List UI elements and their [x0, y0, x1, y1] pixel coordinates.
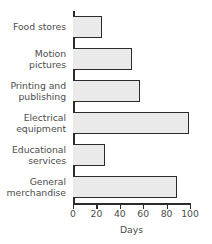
x-axis-tick-label: 40: [114, 208, 126, 220]
category-label-food-stores: Food stores: [0, 11, 70, 43]
x-axis-tick-labels: 020406080100: [73, 208, 190, 221]
x-axis-tick-label: 20: [90, 208, 102, 220]
x-axis-tick-label: 0: [70, 208, 76, 220]
category-label-motion-pictures: Motion pictures: [0, 43, 70, 75]
bar-food-stores: [73, 16, 102, 38]
bar-chart: Food stores Motion pictures Printing and…: [0, 0, 212, 244]
category-axis-labels: Food stores Motion pictures Printing and…: [0, 11, 70, 203]
bar-slot: [73, 107, 190, 139]
category-label-educational-services: Educational services: [0, 139, 70, 171]
x-axis-title: Days: [73, 224, 190, 235]
bar-general-merchandise: [73, 176, 177, 198]
x-axis-tick-label: 60: [137, 208, 149, 220]
category-label-printing-and-publishing: Printing and publishing: [0, 75, 70, 107]
x-axis-tick-label: 80: [161, 208, 173, 220]
bar-slot: [73, 75, 190, 107]
plot-area: [73, 11, 190, 203]
x-axis-tick-label: 100: [181, 208, 199, 220]
bar-slot: [73, 11, 190, 43]
bar-electrical-equipment: [73, 112, 189, 134]
bar-slot: [73, 139, 190, 171]
bar-series: [73, 11, 190, 203]
bar-slot: [73, 43, 190, 75]
bar-printing-and-publishing: [73, 80, 140, 102]
bar-motion-pictures: [73, 48, 132, 70]
bar-slot: [73, 171, 190, 203]
category-label-general-merchandise: General merchandise: [0, 171, 70, 203]
category-label-electrical-equipment: Electrical equipment: [0, 107, 70, 139]
bar-educational-services: [73, 144, 105, 166]
